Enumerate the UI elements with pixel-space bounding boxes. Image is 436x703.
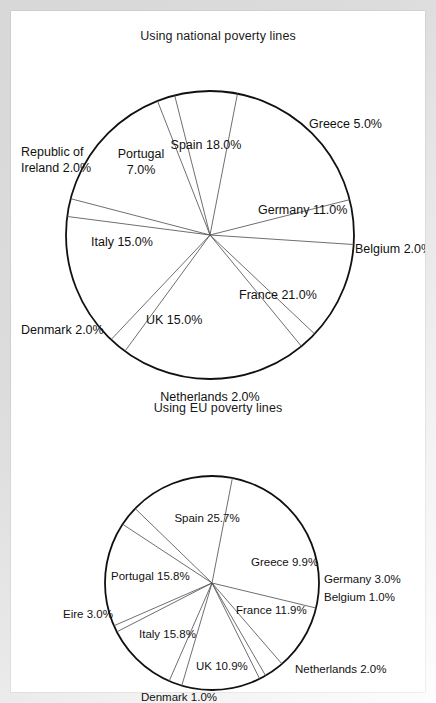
slice-label-germany: Germany 11.0%: [258, 203, 347, 217]
slice-label-netherlands: Netherlands 2.0%: [295, 663, 386, 675]
slice-label-line: Denmark 2.0%: [21, 323, 104, 337]
slice-label-line: Eire 3.0%: [63, 608, 113, 620]
slice-label-line: Denmark 1.0%: [141, 691, 217, 703]
slice-label-line: France 21.0%: [239, 288, 317, 302]
slice-label-line: France 11.9%: [236, 604, 307, 616]
slice-label-line: UK 10.9%: [196, 660, 248, 672]
pie-svg-national: Spain 18.0%Greece 5.0%Germany 11.0%Belgi…: [11, 43, 425, 413]
slice-label-uk: UK 15.0%: [146, 313, 202, 327]
chart-title-national: Using national poverty lines: [11, 29, 425, 43]
pie-svg-eu: Spain 25.7%Greece 9.9%Germany 3.0%Belgiu…: [11, 415, 425, 703]
slice-label-line: Spain 25.7%: [174, 512, 239, 524]
chart-title-eu: Using EU poverty lines: [11, 401, 425, 415]
slice-label-line: Republic of: [21, 145, 84, 159]
slice-label-italy: Italy 15.0%: [91, 235, 153, 249]
slice-label-france: France 21.0%: [239, 288, 317, 302]
slice-label-france: France 11.9%: [236, 604, 307, 616]
slice-label-line: Italy 15.0%: [91, 235, 153, 249]
slice-label-ireland: Republic ofIreland 2.0%: [21, 145, 91, 175]
pie-chart-eu-poverty-lines: Using EU poverty lines Spain 25.7%Greece…: [11, 391, 425, 681]
slice-label-spain: Spain 18.0%: [171, 138, 242, 152]
page-frame: Using national poverty lines Spain 18.0%…: [0, 0, 436, 703]
slice-label-line: UK 15.0%: [146, 313, 202, 327]
slice-label-greece: Greece 5.0%: [309, 117, 382, 131]
slice-label-line: Portugal: [118, 147, 165, 161]
slice-label-eire: Eire 3.0%: [63, 608, 113, 620]
slice-label-line: Belgium 2.0%: [355, 242, 425, 256]
slice-label-line: Germany 3.0%: [324, 573, 401, 585]
slice-label-belgium: Belgium 1.0%: [324, 591, 395, 603]
slice-label-line: Belgium 1.0%: [324, 591, 395, 603]
pie-chart-national-poverty-lines: Using national poverty lines Spain 18.0%…: [11, 15, 425, 385]
slice-label-line: Portugal 15.8%: [111, 570, 190, 582]
slice-label-belgium: Belgium 2.0%: [355, 242, 425, 256]
slice-label-line: 7.0%: [127, 163, 156, 177]
slice-label-line: Germany 11.0%: [258, 203, 347, 217]
slice-label-line: Italy 15.8%: [139, 628, 196, 640]
slice-label-line: Ireland 2.0%: [21, 161, 91, 175]
slice-label-greece: Greece 9.9%: [251, 556, 318, 568]
paper-sheet: Using national poverty lines Spain 18.0%…: [11, 11, 425, 692]
slice-label-denmark: Denmark 2.0%: [21, 323, 104, 337]
slice-label-line: Greece 9.9%: [251, 556, 318, 568]
slice-label-line: Netherlands 2.0%: [295, 663, 386, 675]
slice-label-spain: Spain 25.7%: [174, 512, 239, 524]
slice-label-uk: UK 10.9%: [196, 660, 248, 672]
slice-label-line: Greece 5.0%: [309, 117, 382, 131]
slice-label-denmark: Denmark 1.0%: [141, 691, 217, 703]
slice-label-line: Spain 18.0%: [171, 138, 242, 152]
slice-label-portugal: Portugal 15.8%: [111, 570, 190, 582]
slice-label-italy: Italy 15.8%: [139, 628, 196, 640]
slice-label-germany: Germany 3.0%: [324, 573, 401, 585]
